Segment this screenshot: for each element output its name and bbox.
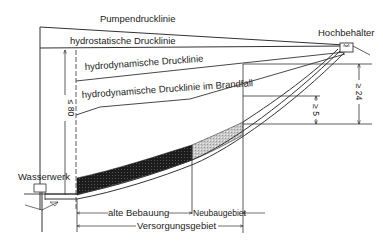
min-fire-pressure-dimension: ≥ 5: [311, 96, 322, 124]
supply-area-label: Versorgungsgebiet: [137, 220, 217, 231]
hydrostatic-pressure-line: hydrostatische Drucklinie: [40, 35, 345, 48]
waterworks-label: Wasserwerk: [18, 171, 70, 182]
hydrodynamic-pressure-line: hydrodynamische Drucklinie: [76, 52, 345, 81]
min-static-pressure-value: ≥ 24: [354, 84, 364, 101]
max-pressure-value: ≤ 80: [66, 100, 76, 117]
elevated-tank: Hochbehälter: [318, 27, 375, 55]
waterworks: Wasserwerk: [18, 171, 77, 232]
min-static-pressure-dimension: ≥ 24: [354, 64, 365, 124]
pressure-line-diagram: Pumpendrucklinie hydrostatische Drucklin…: [0, 0, 383, 248]
tank-icon: [340, 43, 353, 52]
pump-house-icon: [34, 184, 46, 192]
pump-pressure-line-label: Pumpendrucklinie: [100, 13, 176, 24]
hydrodynamic-fire-pressure-line-label: hydrodynamische Drucklinie im Brandfall: [81, 77, 253, 100]
elevated-tank-label: Hochbehälter: [318, 27, 375, 38]
development-dimension: alte Bebauung Neubaugebiet: [77, 207, 265, 218]
old-development-area: [77, 145, 192, 195]
hydrostatic-pressure-line-label: hydrostatische Drucklinie: [70, 35, 176, 46]
new-development-label: Neubaugebiet: [193, 208, 247, 218]
old-development-label: alte Bebauung: [108, 207, 169, 218]
min-fire-pressure-value: ≥ 5: [311, 104, 321, 116]
